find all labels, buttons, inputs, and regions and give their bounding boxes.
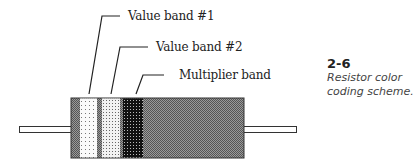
label-value-band-2: Value band #2 [156,40,242,54]
right-lead [244,127,297,133]
left-lead [20,127,72,133]
leader-line-value-band-1 [89,16,120,94]
multiplier-band [123,99,143,158]
value-band-1 [80,99,97,158]
leader-line-value-band-2 [111,47,148,94]
figure-number: 2-6 [327,56,351,71]
label-value-band-1: Value band #1 [128,9,214,23]
leader-line-multiplier-band [136,75,164,94]
value-band-2 [102,99,120,158]
label-multiplier-band: Multiplier band [179,68,271,82]
figure-caption: Resistor color coding scheme. [327,71,417,99]
